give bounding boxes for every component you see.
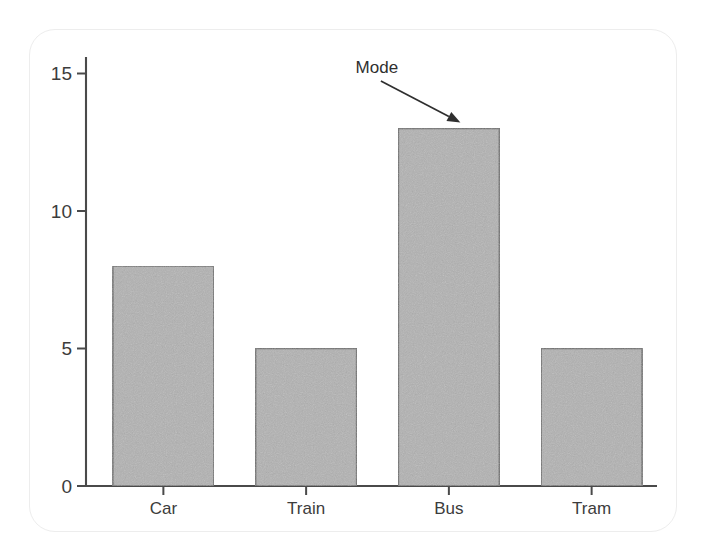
bar-bus xyxy=(398,129,499,487)
annotation-arrow-head xyxy=(446,112,460,123)
chart-canvas: 051015 CarTrainBusTram Mode xyxy=(0,0,707,557)
bar-chart: 051015 CarTrainBusTram Mode xyxy=(0,0,707,557)
bar-tram xyxy=(541,349,642,487)
chart-page: 051015 CarTrainBusTram Mode xyxy=(0,0,707,557)
chart-annotations: Mode xyxy=(356,58,461,123)
bar-series xyxy=(113,129,642,487)
y-tick-label: 0 xyxy=(61,476,72,497)
bar-car xyxy=(113,266,214,486)
x-axis-ticks: CarTrainBusTram xyxy=(150,486,611,518)
x-tick-label-car: Car xyxy=(150,499,178,518)
x-tick-label-bus: Bus xyxy=(434,499,463,518)
x-tick-label-tram: Tram xyxy=(572,499,611,518)
annotation-label-mode: Mode xyxy=(356,58,399,77)
y-tick-label: 10 xyxy=(51,201,72,222)
x-tick-label-train: Train xyxy=(287,499,325,518)
annotation-arrow-line xyxy=(381,81,449,117)
bar-train xyxy=(256,349,357,487)
y-axis-ticks: 051015 xyxy=(51,63,86,497)
y-tick-label: 15 xyxy=(51,63,72,84)
y-tick-label: 5 xyxy=(61,338,72,359)
